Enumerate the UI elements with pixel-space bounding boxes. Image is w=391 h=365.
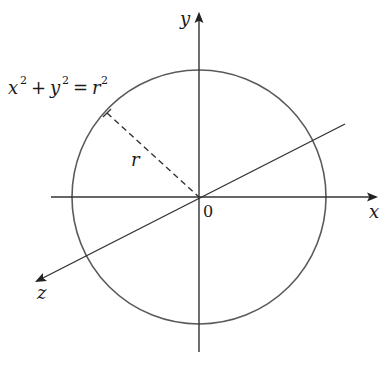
x-axis-label: x (369, 201, 379, 222)
svg-text:x: x (8, 77, 18, 98)
svg-text:2: 2 (20, 74, 27, 87)
svg-text:2: 2 (62, 74, 69, 87)
svg-text:y: y (49, 77, 61, 98)
svg-text:2: 2 (101, 74, 108, 87)
diagram-canvas: y x z 0 r x 2 + y 2 = r 2 (0, 0, 391, 365)
svg-text:+: + (31, 77, 46, 98)
radius-line (107, 113, 199, 197)
origin-label: 0 (203, 202, 213, 221)
radius-label: r (131, 149, 141, 170)
y-axis-label: y (179, 8, 191, 29)
circle-equation: x 2 + y 2 = r 2 (8, 74, 108, 98)
z-axis-label: z (36, 282, 47, 303)
svg-text:=: = (73, 77, 88, 98)
z-axis (37, 124, 345, 281)
